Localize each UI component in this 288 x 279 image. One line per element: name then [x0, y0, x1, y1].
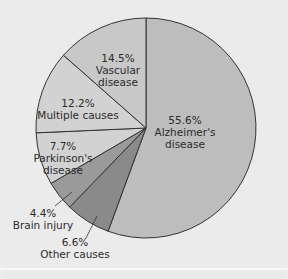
label-pct: 7.7%	[33, 140, 92, 152]
label-text: Vascular	[96, 64, 140, 76]
label-text: disease	[154, 138, 215, 150]
label-pct: 4.4%	[13, 207, 74, 219]
label-text: Parkinson's	[33, 152, 92, 164]
label-multiple-causes: 12.2% Multiple causes	[37, 97, 118, 121]
label-text: Other causes	[40, 248, 109, 260]
label-text: disease	[33, 164, 92, 176]
label-text: Brain injury	[13, 219, 74, 231]
label-text: disease	[96, 76, 140, 88]
label-brain-injury: 4.4% Brain injury	[13, 207, 74, 231]
label-alzheimers: 55.6% Alzheimer's disease	[154, 114, 215, 150]
label-pct: 14.5%	[96, 52, 140, 64]
label-pct: 55.6%	[154, 114, 215, 126]
label-parkinsons: 7.7% Parkinson's disease	[33, 140, 92, 176]
label-pct: 12.2%	[37, 97, 118, 109]
label-text: Alzheimer's	[154, 126, 215, 138]
label-pct: 6.6%	[40, 236, 109, 248]
label-vascular: 14.5% Vascular disease	[96, 52, 140, 88]
label-text: Multiple causes	[37, 109, 118, 121]
label-other-causes: 6.6% Other causes	[40, 236, 109, 260]
